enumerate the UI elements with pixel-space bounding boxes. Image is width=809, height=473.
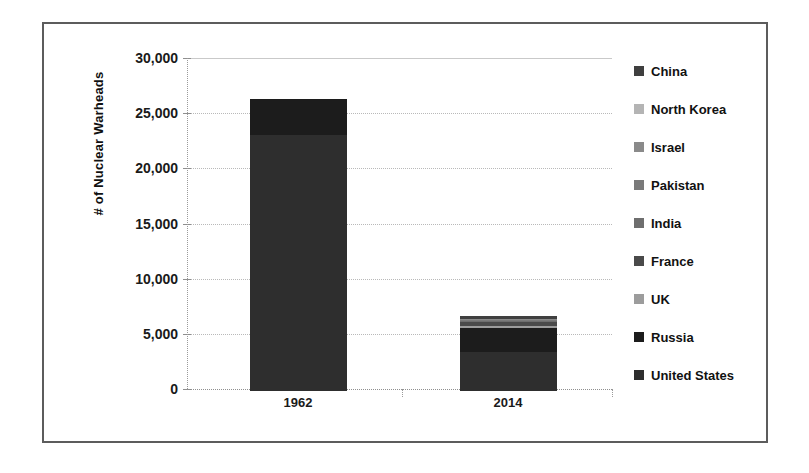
legend-label: North Korea <box>651 102 726 117</box>
bar-segment-united-states[interactable] <box>460 352 557 391</box>
legend-item-united-states[interactable]: United States <box>634 356 764 394</box>
y-tick-label-0: 0 <box>170 381 178 397</box>
legend-swatch-icon <box>634 104 644 114</box>
y-tick-0 <box>183 389 191 390</box>
legend-item-china[interactable]: China <box>634 52 764 90</box>
y-axis-line <box>187 58 188 389</box>
legend-swatch-icon <box>634 180 644 190</box>
gridline-30000 <box>187 58 612 59</box>
legend-swatch-icon <box>634 66 644 76</box>
legend-label: Pakistan <box>651 178 704 193</box>
x-tick-mark-1 <box>612 389 613 397</box>
y-tick-label-30000: 30,000 <box>135 50 178 66</box>
legend-item-pakistan[interactable]: Pakistan <box>634 166 764 204</box>
bar-segment-russia[interactable] <box>250 99 347 135</box>
x-tick-mark-0 <box>402 389 403 397</box>
y-tick-label-25000: 25,000 <box>135 105 178 121</box>
y-tick-label-15000: 15,000 <box>135 216 178 232</box>
legend-swatch-icon <box>634 332 644 342</box>
legend-item-india[interactable]: India <box>634 204 764 242</box>
legend-swatch-icon <box>634 218 644 228</box>
chart-frame: # of Nuclear Warheads 30,00025,00020,000… <box>42 22 768 443</box>
legend-item-russia[interactable]: Russia <box>634 318 764 356</box>
bar-2014[interactable] <box>460 316 557 391</box>
y-axis-title: # of Nuclear Warheads <box>91 34 106 254</box>
y-tick-label-20000: 20,000 <box>135 160 178 176</box>
legend-swatch-icon <box>634 294 644 304</box>
bar-segment-russia[interactable] <box>460 328 557 352</box>
chart-legend: ChinaNorth KoreaIsraelPakistanIndiaFranc… <box>634 52 764 394</box>
legend-label: India <box>651 216 681 231</box>
legend-item-israel[interactable]: Israel <box>634 128 764 166</box>
legend-label: China <box>651 64 687 79</box>
bar-segment-united-states[interactable] <box>250 135 347 391</box>
legend-item-uk[interactable]: UK <box>634 280 764 318</box>
legend-label: United States <box>651 368 734 383</box>
y-tick-label-5000: 5,000 <box>143 326 178 342</box>
legend-label: Israel <box>651 140 685 155</box>
legend-swatch-icon <box>634 370 644 380</box>
legend-label: France <box>651 254 694 269</box>
bar-1962[interactable] <box>250 99 347 391</box>
x-tick-label-1962: 1962 <box>218 395 378 410</box>
y-tick-label-10000: 10,000 <box>135 271 178 287</box>
x-tick-label-2014: 2014 <box>428 395 588 410</box>
legend-swatch-icon <box>634 256 644 266</box>
plot-area: 30,00025,00020,00015,00010,0005,0000 196… <box>187 58 612 391</box>
legend-swatch-icon <box>634 142 644 152</box>
legend-label: Russia <box>651 330 694 345</box>
legend-label: UK <box>651 292 670 307</box>
legend-item-north-korea[interactable]: North Korea <box>634 90 764 128</box>
legend-item-france[interactable]: France <box>634 242 764 280</box>
